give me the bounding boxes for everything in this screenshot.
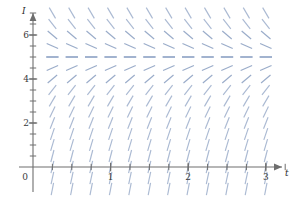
slope-segment (108, 106, 113, 117)
slope-segment (129, 183, 131, 195)
y-axis-label: I (21, 6, 26, 16)
x-tick-label: 3 (263, 172, 269, 182)
slope-segment (49, 19, 57, 29)
slope-segment (50, 128, 54, 140)
slope-segment (89, 117, 94, 129)
slope-segment (186, 128, 190, 140)
slope-segment (129, 172, 132, 184)
slope-segment (85, 66, 96, 71)
slope-segment (109, 183, 111, 195)
slope-segment (127, 106, 132, 117)
slope-segment (223, 19, 231, 29)
slope-segment (71, 172, 74, 184)
slope-segment (187, 150, 190, 162)
tick-label-group: 1230246 (22, 30, 269, 182)
x-axis-arrowhead (274, 164, 282, 171)
slope-segment (204, 85, 212, 95)
slope-segment (146, 19, 154, 29)
slope-segment (263, 8, 269, 19)
slope-field-figure: 1230246 t I (0, 0, 298, 200)
slope-segment (51, 139, 55, 151)
slope-segment (87, 85, 95, 95)
slope-segment (263, 96, 269, 107)
x-tick-label: 1 (108, 172, 114, 182)
slope-segment (185, 96, 191, 107)
slope-segment (148, 139, 152, 151)
slope-segment (163, 66, 174, 71)
slope-segment (147, 117, 152, 129)
slope-segment (147, 106, 152, 117)
slope-segment (264, 150, 267, 162)
slope-segment (167, 117, 172, 129)
slope-segment (107, 96, 113, 107)
slope-segment (245, 172, 248, 184)
slope-segment (144, 66, 155, 71)
slope-segment (243, 85, 251, 95)
slope-segment (69, 96, 75, 107)
slope-segment (147, 128, 151, 140)
y-tick-label: 2 (23, 118, 29, 128)
slope-segment (204, 96, 210, 107)
slope-segment (51, 183, 53, 195)
slope-segment (206, 172, 209, 184)
slope-segment (49, 96, 55, 107)
slope-segment (51, 172, 54, 184)
slope-segment (264, 139, 268, 151)
slope-segment (245, 139, 249, 151)
slope-segment (105, 44, 116, 49)
x-axis-label: t (285, 168, 289, 178)
slope-segment (202, 66, 213, 71)
slope-segment (146, 96, 152, 107)
slope-segment (109, 150, 112, 162)
slope-segment (183, 31, 192, 39)
slope-segment (66, 66, 77, 71)
slope-segment (243, 19, 251, 29)
slope-segment (90, 150, 93, 162)
slope-segment (167, 128, 171, 140)
slope-segment (206, 128, 210, 140)
slope-segment (226, 183, 228, 195)
slope-segment (265, 183, 267, 195)
slope-segment (89, 139, 93, 151)
slope-segment (70, 117, 75, 129)
x-tick-label: 2 (185, 172, 191, 182)
slope-segment (163, 44, 174, 49)
slope-segment (124, 66, 135, 71)
slope-segment (148, 183, 150, 195)
slope-segment (49, 85, 57, 95)
slope-segment (221, 44, 232, 49)
slope-segment (67, 31, 76, 39)
slope-segment (168, 172, 171, 184)
slope-segment (127, 8, 133, 19)
slope-segment (167, 139, 171, 151)
slope-segment (146, 8, 152, 19)
slope-segment (205, 106, 210, 117)
slope-segment (128, 139, 132, 151)
origin-label: 0 (22, 172, 28, 182)
slope-segment (87, 19, 95, 29)
slope-segment (206, 150, 209, 162)
slope-segment (107, 8, 113, 19)
slope-segment (225, 117, 230, 129)
slope-segment (222, 31, 231, 39)
y-axis-arrowhead (30, 13, 37, 21)
slope-segment (205, 117, 210, 129)
slope-segment (146, 85, 154, 95)
slope-field-canvas: 1230246 t I (0, 0, 298, 200)
slope-segment (47, 44, 58, 49)
slope-segment (186, 117, 191, 129)
slope-segment (145, 31, 154, 39)
slope-segment (202, 44, 213, 49)
slope-segment (50, 117, 55, 129)
slope-segment (164, 75, 173, 83)
slope-segment (51, 150, 54, 162)
slope-segment (226, 172, 229, 184)
slope-segment (128, 150, 131, 162)
slope-segment (225, 139, 229, 151)
slope-segment (86, 31, 95, 39)
slope-segment (47, 66, 58, 71)
slope-segment (166, 106, 171, 117)
y-tick-label: 6 (23, 30, 29, 40)
slope-segment (106, 75, 115, 83)
slope-segment (243, 96, 249, 107)
